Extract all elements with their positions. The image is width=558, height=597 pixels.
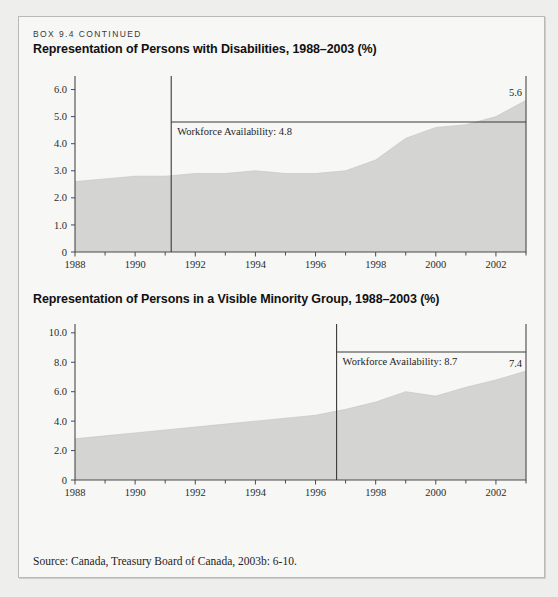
- y-tick-label: 0: [62, 247, 67, 258]
- chart-1-title: Representation of Persons with Disabilit…: [33, 42, 530, 56]
- x-tick-label: 1990: [125, 487, 146, 498]
- x-tick-label: 1988: [65, 259, 86, 270]
- x-tick-label: 1998: [365, 259, 386, 270]
- y-tick-label: 4.0: [54, 138, 67, 149]
- box-kicker: BOX 9.4 CONTINUED: [33, 29, 530, 39]
- y-tick-label: 1.0: [54, 220, 67, 231]
- page-background: BOX 9.4 CONTINUED Representation of Pers…: [0, 0, 558, 597]
- box-panel: BOX 9.4 CONTINUED Representation of Pers…: [18, 16, 545, 578]
- y-tick-label: 5.0: [54, 111, 67, 122]
- workforce-availability-label: Workforce Availability: 8.7: [343, 356, 458, 367]
- x-tick-label: 1990: [125, 259, 146, 270]
- chart-1-figure: 01.02.03.04.05.06.0198819901992199419961…: [33, 62, 530, 276]
- x-tick-label: 2000: [425, 487, 446, 498]
- area-series: [75, 371, 526, 480]
- y-tick-label: 3.0: [54, 165, 67, 176]
- x-tick-label: 1988: [65, 487, 86, 498]
- x-tick-label: 2002: [485, 487, 506, 498]
- x-tick-label: 1992: [185, 487, 206, 498]
- y-tick-label: 10.0: [49, 327, 67, 338]
- y-tick-label: 6.0: [54, 386, 67, 397]
- x-tick-label: 1998: [365, 487, 386, 498]
- end-value-label: 5.6: [509, 87, 522, 98]
- x-tick-label: 1994: [245, 259, 267, 270]
- end-value-label: 7.4: [509, 358, 523, 369]
- y-tick-label: 2.0: [54, 445, 67, 456]
- x-tick-label: 1996: [305, 487, 326, 498]
- chart-1-svg: 01.02.03.04.05.06.0198819901992199419961…: [33, 62, 532, 276]
- y-tick-label: 4.0: [54, 416, 67, 427]
- x-tick-label: 1992: [185, 259, 206, 270]
- chart-2-title: Representation of Persons in a Visible M…: [33, 292, 530, 306]
- chart-2-svg: 02.04.06.08.010.019881990199219941996199…: [33, 312, 532, 504]
- x-tick-label: 1996: [305, 259, 326, 270]
- source-note: Source: Canada, Treasury Board of Canada…: [33, 555, 297, 567]
- y-tick-label: 0: [62, 475, 67, 486]
- chart-2-figure: 02.04.06.08.010.019881990199219941996199…: [33, 312, 530, 504]
- x-tick-label: 2000: [425, 259, 446, 270]
- x-tick-label: 1994: [245, 487, 267, 498]
- x-tick-label: 2002: [485, 259, 506, 270]
- y-tick-label: 2.0: [54, 192, 67, 203]
- workforce-availability-label: Workforce Availability: 4.8: [177, 126, 292, 137]
- y-tick-label: 6.0: [54, 84, 67, 95]
- box-inner: BOX 9.4 CONTINUED Representation of Pers…: [19, 17, 544, 577]
- y-tick-label: 8.0: [54, 357, 67, 368]
